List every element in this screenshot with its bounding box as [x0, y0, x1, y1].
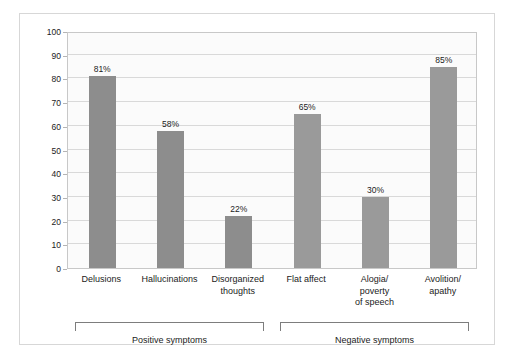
y-tick-label-0: 0: [21, 264, 61, 274]
x-axis-label-6: Avolition/apathy: [397, 274, 489, 297]
y-tick-mark-100: [63, 32, 67, 33]
bar-value-label-2: 58%: [162, 119, 179, 129]
y-tick-label-50: 50: [21, 146, 61, 156]
x-axis-label-line: of speech: [329, 297, 421, 309]
bar-5[interactable]: 30%: [362, 197, 389, 268]
bar-value-label-6: 85%: [435, 55, 452, 65]
bar-6[interactable]: 85%: [430, 67, 457, 268]
y-tick-mark-50: [63, 151, 67, 152]
gridline-50: [68, 149, 476, 150]
x-axis-label-line: apathy: [397, 286, 489, 298]
group-label-1: Positive symptoms: [75, 335, 264, 345]
y-tick-mark-60: [63, 127, 67, 128]
y-tick-mark-30: [63, 198, 67, 199]
x-axis-label-line: thoughts: [192, 286, 284, 298]
y-tick-mark-10: [63, 245, 67, 246]
plot-wrapper: Percentage 81%58%22%65%30%85% 1009080706…: [67, 32, 477, 269]
gridline-70: [68, 101, 476, 102]
gridline-60: [68, 125, 476, 126]
gridline-30: [68, 196, 476, 197]
y-tick-label-40: 40: [21, 169, 61, 179]
y-tick-label-10: 10: [21, 240, 61, 250]
bar-2[interactable]: 58%: [157, 131, 184, 268]
y-tick-mark-70: [63, 103, 67, 104]
y-tick-label-70: 70: [21, 98, 61, 108]
bar-1[interactable]: 81%: [89, 76, 116, 268]
gridline-80: [68, 77, 476, 78]
bar-value-label-4: 65%: [299, 102, 316, 112]
gridline-10: [68, 243, 476, 244]
y-tick-label-90: 90: [21, 51, 61, 61]
y-tick-label-80: 80: [21, 74, 61, 84]
group-label-2: Negative symptoms: [280, 335, 469, 345]
y-tick-mark-20: [63, 222, 67, 223]
y-tick-mark-0: [63, 269, 67, 270]
gridline-90: [68, 54, 476, 55]
x-axis-label-line: Avolition/: [397, 274, 489, 286]
y-tick-label-30: 30: [21, 193, 61, 203]
gridline-20: [68, 220, 476, 221]
group-bracket-2: [280, 322, 469, 331]
bar-4[interactable]: 65%: [294, 114, 321, 268]
y-tick-label-60: 60: [21, 122, 61, 132]
bar-3[interactable]: 22%: [225, 216, 252, 268]
y-tick-mark-90: [63, 56, 67, 57]
bar-value-label-5: 30%: [367, 185, 384, 195]
plot-area: 81%58%22%65%30%85%: [67, 32, 477, 269]
y-tick-mark-40: [63, 174, 67, 175]
group-bracket-1: [75, 322, 264, 331]
gridline-40: [68, 172, 476, 173]
bar-value-label-1: 81%: [94, 64, 111, 74]
y-tick-label-100: 100: [21, 27, 61, 37]
y-tick-mark-80: [63, 79, 67, 80]
figure-container: Percentage 81%58%22%65%30%85% 1009080706…: [0, 0, 513, 359]
bar-value-label-3: 22%: [230, 204, 247, 214]
y-tick-label-20: 20: [21, 217, 61, 227]
